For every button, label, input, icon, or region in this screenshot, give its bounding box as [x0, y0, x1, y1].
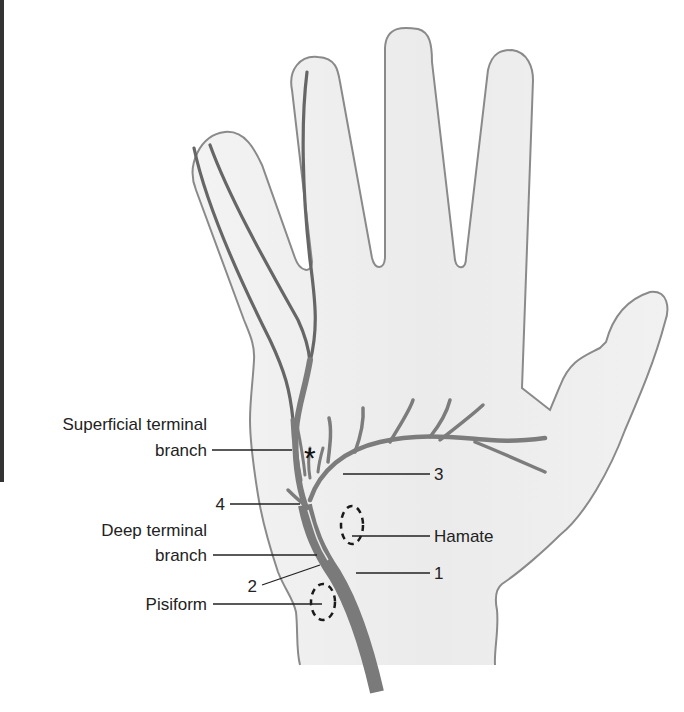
label-superficial-terminal-line1: Superficial terminal [62, 415, 207, 434]
label-deep-terminal-line1: Deep terminal [101, 521, 207, 540]
label-branch-4: 4 [216, 495, 225, 514]
label-deep-terminal-line2: branch [155, 546, 207, 565]
label-hamate: Hamate [434, 527, 494, 546]
asterisk-marker: * [304, 441, 316, 474]
label-superficial-terminal-line2: branch [155, 441, 207, 460]
hand-outline [193, 28, 668, 665]
label-branch-2: 2 [248, 577, 257, 596]
label-pisiform: Pisiform [146, 595, 207, 614]
label-branch-1: 1 [434, 564, 443, 583]
hand-diagram: Superficial terminal branch 4 Deep termi… [0, 0, 684, 712]
label-branch-3: 3 [434, 465, 443, 484]
